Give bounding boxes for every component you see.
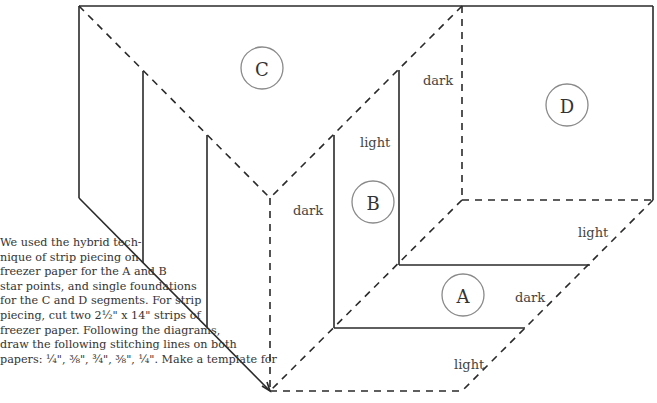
shade-label-light-bottom: light xyxy=(454,357,485,372)
caption-line: star points, and single foundations xyxy=(0,280,278,295)
shade-label-dark-d: dark xyxy=(423,73,453,88)
seam-c-left xyxy=(79,6,270,198)
shade-label-dark-c: dark xyxy=(293,203,323,218)
instruction-caption: We used the hybrid tech- nique of strip … xyxy=(0,236,278,367)
shade-label-light-b: light xyxy=(360,135,391,150)
caption-line: papers: ¼", ⅜", ¾", ⅜", ¼". Make a templ… xyxy=(0,353,278,368)
seam-a-outer-diagonal xyxy=(462,200,653,391)
segment-d-marker: D xyxy=(546,84,588,126)
svg-text:B: B xyxy=(366,193,379,214)
caption-line: nique of strip piecing on xyxy=(0,251,278,266)
caption-line: We used the hybrid tech- xyxy=(0,236,278,251)
svg-text:A: A xyxy=(456,286,471,307)
caption-line: freezer paper for the A and B xyxy=(0,265,278,280)
caption-line: freezer paper. Following the diagrams, xyxy=(0,324,278,339)
seam-a-inner-diagonal xyxy=(270,200,462,391)
segment-c-marker: C xyxy=(241,47,283,89)
caption-line: draw the following stitching lines on bo… xyxy=(0,338,278,353)
svg-text:C: C xyxy=(255,59,269,80)
svg-text:D: D xyxy=(560,96,574,117)
seam-c-right xyxy=(270,6,462,198)
segment-b-marker: B xyxy=(352,181,394,223)
caption-line: for the C and D segments. For strip xyxy=(0,294,278,309)
shade-label-light-a-top: light xyxy=(578,225,609,240)
segment-a-marker: A xyxy=(442,274,484,316)
shade-label-dark-a: dark xyxy=(515,290,545,305)
caption-line: piecing, cut two 2½" x 14" strips of xyxy=(0,309,278,324)
